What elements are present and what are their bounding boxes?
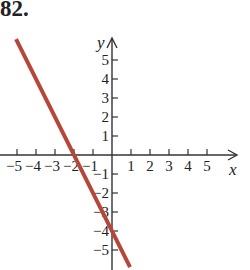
y-tick-label: −5 [93,242,109,258]
y-tick-label: −1 [93,166,109,182]
coordinate-plane: −5−4−3−2−112345−5−4−3−2−112345xy [0,0,250,270]
x-tick-label: −3 [44,158,60,174]
y-tick-label: 3 [102,90,110,106]
y-tick-label: 1 [102,128,110,144]
x-tick-label: 2 [146,158,154,174]
x-tick-label: 3 [165,158,173,174]
y-tick-label: 2 [102,109,110,125]
graph-line [16,39,130,267]
x-tick-label: −4 [25,158,41,174]
x-tick-label: 4 [184,158,192,174]
x-axis-label: x [228,160,237,179]
y-axis-label: y [95,33,105,52]
x-tick-label: 5 [203,158,211,174]
x-tick-label: 1 [127,158,135,174]
x-tick-label: −5 [6,158,22,174]
y-tick-label: 5 [102,52,110,68]
y-tick-label: 4 [102,71,110,87]
